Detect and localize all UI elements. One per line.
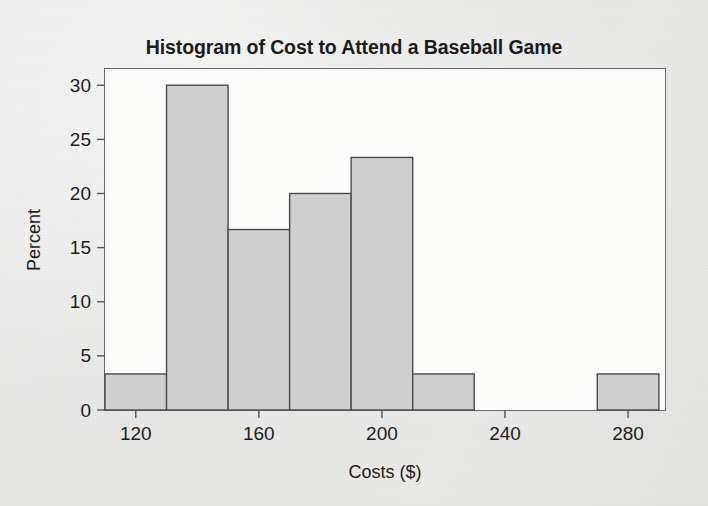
histogram-bar [351,157,413,410]
y-tick-label: 10 [70,291,91,312]
y-axis-title: Percent [24,209,44,271]
figure-page: Histogram of Cost to Attend a Baseball G… [0,0,708,506]
x-tick-label: 280 [612,423,644,444]
x-axis-title: Costs ($) [348,462,421,482]
histogram-bar [413,374,475,410]
histogram-bar [228,230,290,410]
histogram-bar [105,374,167,410]
y-axis-ticks: 051015202530 [70,75,105,421]
x-axis-ticks: 120160200240280 [120,410,644,444]
histogram-bar [167,85,229,410]
histogram-plot: 120160200240280 051015202530 Costs ($) P… [0,0,708,506]
y-tick-label: 25 [70,129,91,150]
y-tick-label: 0 [80,400,91,421]
y-tick-label: 30 [70,75,91,96]
y-tick-label: 20 [70,183,91,204]
x-tick-label: 120 [120,423,152,444]
y-tick-label: 5 [80,345,91,366]
x-tick-label: 160 [243,423,275,444]
x-tick-label: 240 [489,423,521,444]
histogram-bar [597,374,659,410]
histogram-bar [290,193,352,410]
y-tick-label: 15 [70,237,91,258]
x-tick-label: 200 [366,423,398,444]
